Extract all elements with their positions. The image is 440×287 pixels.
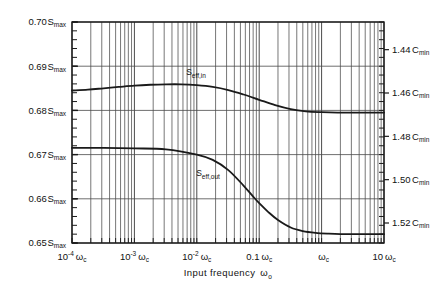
chart-figure: 1.44Cmin1.46Cmin1.48Cmin1.50Cmin1.52Cmin… [0, 0, 440, 287]
chart-svg: 1.44Cmin1.46Cmin1.48Cmin1.50Cmin1.52Cmin… [0, 0, 440, 287]
